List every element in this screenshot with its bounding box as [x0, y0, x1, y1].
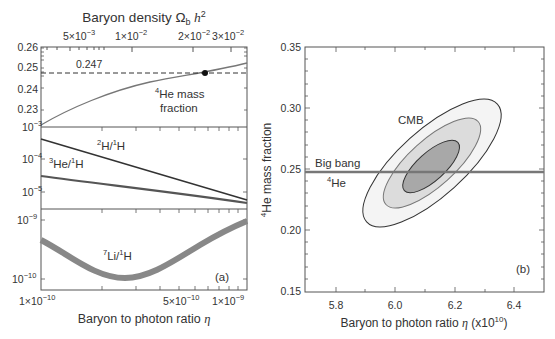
svg-text:0.24: 0.24: [18, 83, 39, 95]
svg-text:6.0: 6.0: [388, 299, 403, 311]
top-axis-title: Baryon density Ωb h2: [82, 9, 205, 27]
left-minor-ticks-1: [41, 48, 247, 110]
he3-h-curve: [41, 176, 247, 203]
cmb-contours: [345, 80, 520, 247]
svg-text:0.30: 0.30: [281, 102, 302, 114]
dh-annotation: 2H/1H: [97, 138, 125, 152]
panel-a: Baryon density Ωb h2 5×10−3 1×10−2 2×10−…: [12, 9, 247, 326]
top-axis-ticks: 5×10−3 1×10−2 2×10−2 3×10−2: [63, 28, 244, 42]
x-ticks-b: 5.8 6.0 6.2 6.4: [329, 299, 522, 311]
svg-text:1×10−9: 1×10−9: [212, 293, 244, 307]
li-annotation: 7Li/1H: [103, 248, 132, 262]
top-tick-label: 2×10−2: [178, 28, 210, 42]
panel-label-b: (b): [516, 263, 530, 275]
he4-label: 4He: [327, 175, 346, 189]
svg-text:6.2: 6.2: [448, 299, 463, 311]
he3-annotation: 3He/1H: [49, 156, 84, 170]
marker-point: [202, 70, 208, 76]
he4-curve: [41, 63, 247, 125]
big-bang-label: Big bang: [315, 157, 360, 169]
y-axis-title-b: 4He mass fraction: [259, 123, 274, 217]
figure: Baryon density Ωb h2 5×10−3 1×10−2 2×10−…: [0, 0, 555, 339]
svg-text:1×10−10: 1×10−10: [19, 293, 55, 307]
bottom-axis-ticks: 1×10−10 5×10−10 1×10−9: [19, 293, 244, 307]
svg-text:10−5: 10−5: [22, 184, 42, 198]
svg-text:5.8: 5.8: [329, 299, 344, 311]
x-axis-title-a: Baryon to photon ratio η: [78, 312, 211, 326]
svg-text:0.25: 0.25: [18, 61, 39, 73]
top-ticks: [47, 47, 231, 52]
svg-text:10−10: 10−10: [12, 271, 36, 285]
svg-text:0.25: 0.25: [281, 163, 302, 175]
top-tick-label: 5×10−3: [63, 28, 95, 42]
x-axis-title-b: Baryon to photon ratio η (x1010): [341, 315, 508, 330]
li7-band: [41, 221, 247, 278]
panel-b: 0.35 0.30 0.25 0.20 0.15: [259, 41, 544, 330]
svg-text:0.26: 0.26: [18, 41, 39, 53]
d-h-curve: [41, 139, 247, 200]
y-ticks-li: 10−9 10−10: [12, 212, 37, 285]
svg-text:0.20: 0.20: [281, 224, 302, 236]
ref-label: 0.247: [76, 58, 102, 70]
top-tick-label: 1×10−2: [115, 28, 147, 42]
svg-text:0.23: 0.23: [18, 103, 39, 115]
y-ticks-dh: 10−3 10−4 10−5: [22, 119, 42, 198]
panel-label-a: (a): [215, 271, 229, 283]
svg-text:10−4: 10−4: [22, 151, 42, 165]
cmb-label: CMB: [398, 114, 424, 126]
svg-text:0.35: 0.35: [281, 41, 302, 53]
svg-text:10−9: 10−9: [17, 212, 37, 226]
y-ticks-b: 0.35 0.30 0.25 0.20 0.15: [281, 41, 302, 297]
he4-annotation-line2: fraction: [160, 102, 198, 114]
svg-text:0.15: 0.15: [281, 285, 302, 297]
y-ticks-he4: 0.26 0.25 0.24 0.23: [18, 41, 39, 115]
top-tick-label: 3×10−2: [212, 28, 244, 42]
he4-annotation: 4He mass: [155, 86, 205, 100]
svg-text:10−3: 10−3: [22, 119, 42, 133]
svg-text:6.4: 6.4: [507, 299, 522, 311]
svg-text:5×10−10: 5×10−10: [163, 293, 199, 307]
